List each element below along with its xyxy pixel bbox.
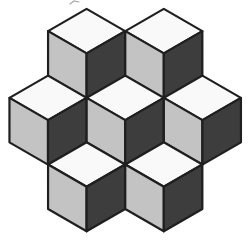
figure-canvas (0, 0, 249, 240)
isometric-cubes-figure (0, 0, 249, 240)
stray-scan-mark (70, 1, 79, 4)
